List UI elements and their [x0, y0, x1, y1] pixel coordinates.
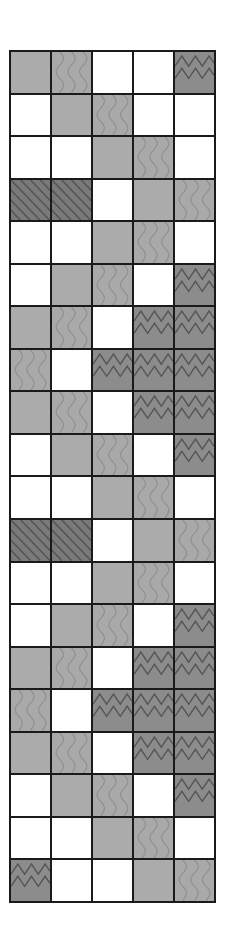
grid-cell-dark-gray-horizontal-zigzag — [174, 732, 215, 775]
dark-gray-horizontal-zigzag-pattern-icon — [134, 690, 173, 731]
grid-cell-white-empty — [10, 264, 51, 307]
dark-gray-horizontal-zigzag-pattern-icon — [175, 350, 214, 391]
grid-cell-white-empty — [10, 604, 51, 647]
light-gray-vertical-wavy-pattern-icon — [134, 563, 173, 604]
light-gray-vertical-wavy-pattern-icon — [134, 818, 173, 859]
grid-cell-light-gray-stipple — [51, 604, 92, 647]
light-gray-vertical-wavy-pattern-icon — [175, 860, 214, 901]
grid-cell-white-empty — [51, 689, 92, 732]
grid-cell-light-gray-stipple — [51, 264, 92, 307]
grid-cell-white-empty — [10, 817, 51, 860]
grid-cell-white-empty — [10, 221, 51, 264]
grid-cell-dark-gray-horizontal-zigzag — [174, 689, 215, 732]
dark-gray-horizontal-zigzag-pattern-icon — [175, 605, 214, 646]
grid-cell-white-empty — [51, 221, 92, 264]
dark-gray-horizontal-zigzag-pattern-icon — [134, 733, 173, 774]
grid-cell-white-empty — [10, 94, 51, 137]
dark-gray-horizontal-zigzag-pattern-icon — [93, 350, 132, 391]
grid-cell-light-gray-vertical-wavy — [10, 349, 51, 392]
grid-cell-white-empty — [92, 859, 133, 902]
grid-cell-white-empty — [133, 51, 174, 94]
grid-cell-light-gray-vertical-wavy — [92, 774, 133, 817]
grid-cell-light-gray-stipple — [10, 647, 51, 690]
grid-cell-dark-gray-horizontal-zigzag — [133, 689, 174, 732]
dark-gray-horizontal-zigzag-pattern-icon — [175, 648, 214, 689]
grid-cell-light-gray-vertical-wavy — [10, 689, 51, 732]
grid-cell-dark-gray-horizontal-zigzag — [174, 349, 215, 392]
grid-cell-white-empty — [133, 774, 174, 817]
grid-cell-light-gray-vertical-wavy — [92, 434, 133, 477]
grid-cell-white-empty — [51, 562, 92, 605]
grid-cell-dark-gray-horizontal-zigzag — [92, 689, 133, 732]
grid-cell-white-empty — [10, 476, 51, 519]
light-gray-vertical-wavy-pattern-icon — [93, 775, 132, 816]
light-gray-vertical-wavy-pattern-icon — [134, 137, 173, 178]
dark-gray-horizontal-zigzag-pattern-icon — [11, 860, 50, 901]
light-gray-vertical-wavy-pattern-icon — [52, 648, 91, 689]
grid-cell-white-empty — [51, 859, 92, 902]
dark-gray-horizontal-zigzag-pattern-icon — [175, 775, 214, 816]
grid-cell-white-empty — [51, 349, 92, 392]
grid-cell-light-gray-vertical-wavy — [92, 264, 133, 307]
grid-cell-white-empty — [10, 434, 51, 477]
dark-gray-diagonal-hatch-pattern-icon — [52, 520, 91, 561]
grid-cell-light-gray-stipple — [92, 562, 133, 605]
dark-gray-horizontal-zigzag-pattern-icon — [134, 392, 173, 433]
grid-cell-dark-gray-horizontal-zigzag — [92, 349, 133, 392]
grid-cell-dark-gray-horizontal-zigzag — [174, 391, 215, 434]
grid-cell-white-empty — [92, 306, 133, 349]
grid-cell-white-empty — [10, 774, 51, 817]
grid-cell-white-empty — [10, 562, 51, 605]
grid-cell-light-gray-stipple — [10, 51, 51, 94]
light-gray-vertical-wavy-pattern-icon — [11, 350, 50, 391]
grid-cell-dark-gray-diagonal-hatch — [10, 179, 51, 222]
dark-gray-horizontal-zigzag-pattern-icon — [134, 307, 173, 348]
grid-cell-light-gray-stipple — [10, 732, 51, 775]
grid-cell-light-gray-stipple — [10, 306, 51, 349]
dark-gray-horizontal-zigzag-pattern-icon — [175, 307, 214, 348]
dark-gray-horizontal-zigzag-pattern-icon — [175, 392, 214, 433]
grid-cell-white-empty — [174, 94, 215, 137]
dark-gray-diagonal-hatch-pattern-icon — [11, 180, 50, 221]
grid-cell-dark-gray-diagonal-hatch — [51, 519, 92, 562]
grid-cell-white-empty — [92, 51, 133, 94]
light-gray-vertical-wavy-pattern-icon — [52, 307, 91, 348]
grid-cell-light-gray-vertical-wavy — [174, 179, 215, 222]
grid-cell-light-gray-stipple — [92, 136, 133, 179]
grid-cell-light-gray-vertical-wavy — [133, 817, 174, 860]
grid-cell-white-empty — [133, 264, 174, 307]
light-gray-vertical-wavy-pattern-icon — [93, 605, 132, 646]
light-gray-vertical-wavy-pattern-icon — [175, 520, 214, 561]
grid-cell-light-gray-stipple — [51, 434, 92, 477]
grid-cell-white-empty — [92, 179, 133, 222]
grid-cell-dark-gray-horizontal-zigzag — [133, 732, 174, 775]
grid-cell-dark-gray-horizontal-zigzag — [133, 306, 174, 349]
grid-cell-light-gray-stipple — [133, 179, 174, 222]
grid-cell-white-empty — [92, 647, 133, 690]
dark-gray-diagonal-hatch-pattern-icon — [52, 180, 91, 221]
grid-cell-white-empty — [10, 136, 51, 179]
grid-cell-light-gray-vertical-wavy — [51, 306, 92, 349]
grid-cell-light-gray-vertical-wavy — [92, 94, 133, 137]
grid-cell-light-gray-vertical-wavy — [174, 519, 215, 562]
grid-cell-light-gray-stipple — [92, 221, 133, 264]
dark-gray-horizontal-zigzag-pattern-icon — [175, 52, 214, 93]
light-gray-vertical-wavy-pattern-icon — [52, 392, 91, 433]
grid-cell-dark-gray-horizontal-zigzag — [174, 434, 215, 477]
grid-cell-white-empty — [92, 732, 133, 775]
grid-cell-dark-gray-horizontal-zigzag — [174, 51, 215, 94]
grid-cell-dark-gray-horizontal-zigzag — [174, 306, 215, 349]
grid-cell-white-empty — [133, 604, 174, 647]
grid-cell-light-gray-vertical-wavy — [51, 732, 92, 775]
grid-cell-dark-gray-diagonal-hatch — [10, 519, 51, 562]
light-gray-vertical-wavy-pattern-icon — [93, 95, 132, 136]
dark-gray-horizontal-zigzag-pattern-icon — [175, 733, 214, 774]
light-gray-vertical-wavy-pattern-icon — [134, 222, 173, 263]
grid-cell-dark-gray-horizontal-zigzag — [174, 264, 215, 307]
grid-cell-white-empty — [51, 476, 92, 519]
dark-gray-horizontal-zigzag-pattern-icon — [175, 265, 214, 306]
grid-cell-light-gray-vertical-wavy — [133, 221, 174, 264]
grid-cell-white-empty — [174, 817, 215, 860]
grid-cell-light-gray-stipple — [133, 519, 174, 562]
grid-cell-white-empty — [174, 562, 215, 605]
